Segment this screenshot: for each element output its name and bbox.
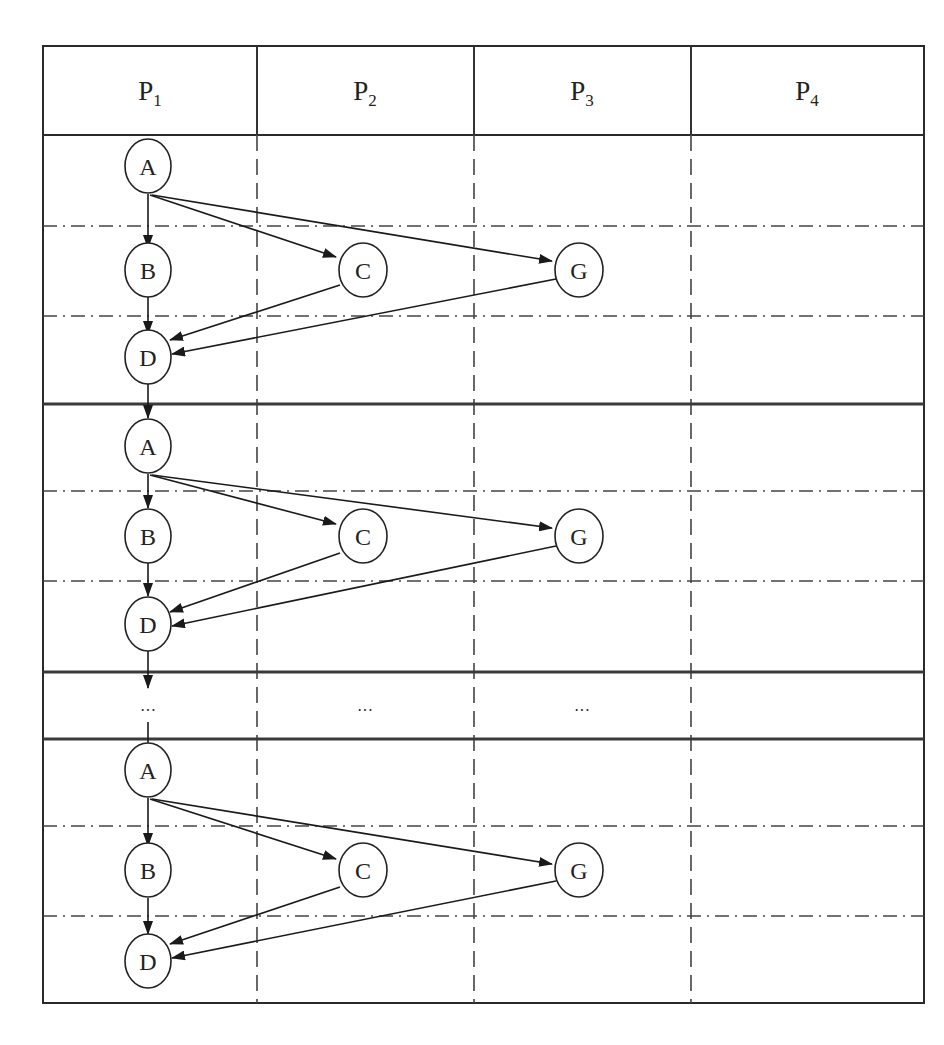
node-g: G [555,243,603,297]
svg-text:C: C [355,524,371,550]
node-a: A [125,139,171,193]
ellipsis-p1: ··· [140,702,156,719]
node-c: C [339,843,387,897]
edge-c-d [170,553,340,612]
header-p2: P2 [353,76,377,110]
svg-text:G: G [570,858,587,884]
header-p1: P1 [138,76,162,110]
table-frame [43,46,924,1003]
node-g: G [555,509,603,563]
svg-text:A: A [139,154,157,180]
schedule-diagram: P1 P2 P3 P4 A B C G D A B [0,0,944,1045]
iteration-1: A B C G D [125,139,603,384]
svg-text:B: B [140,258,156,284]
time-step-lines [43,226,924,916]
node-d: D [125,934,171,988]
node-b: B [125,843,171,897]
svg-text:A: A [139,758,157,784]
node-d: D [125,597,171,651]
edge-c-d [170,285,340,340]
node-a: A [125,419,171,473]
node-d: D [125,330,171,384]
iteration-n: A B C G D [125,743,603,988]
header-column-dividers [257,46,691,135]
header-p3: P3 [570,76,594,110]
ellipsis-p2: ··· [357,702,373,719]
header-p4: P4 [795,76,819,110]
svg-text:C: C [355,858,371,884]
svg-text:G: G [570,524,587,550]
iteration-2: A B C G D [125,419,603,651]
node-c: C [339,243,387,297]
edge-a-c [150,799,336,859]
svg-text:B: B [140,524,156,550]
ellipsis-p3: ··· [574,702,590,719]
processor-headers: P1 P2 P3 P4 [138,76,819,110]
node-c: C [339,509,387,563]
svg-text:C: C [355,258,371,284]
svg-text:D: D [139,612,156,638]
node-b: B [125,243,171,297]
iteration-separators [43,404,924,739]
svg-text:D: D [139,949,156,975]
svg-text:B: B [140,858,156,884]
svg-text:D: D [139,345,156,371]
node-b: B [125,509,171,563]
node-a: A [125,743,171,797]
body-column-dividers [257,135,691,1003]
svg-text:G: G [570,258,587,284]
edge-a-c [150,475,336,524]
svg-text:A: A [139,434,157,460]
node-g: G [555,843,603,897]
